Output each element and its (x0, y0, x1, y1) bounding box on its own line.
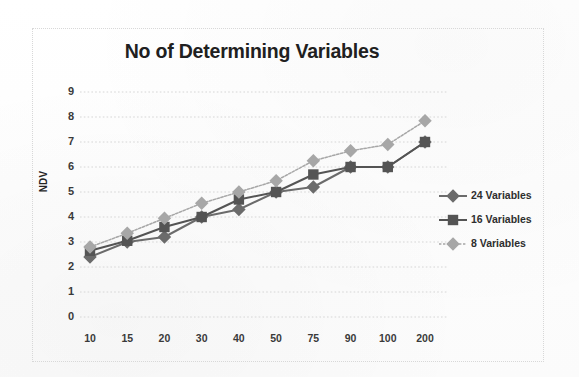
y-axis-tick-label: 8 (52, 110, 74, 122)
x-axis-tick-label: 100 (368, 332, 408, 344)
legend-item-0[interactable]: 24 Variables (438, 183, 548, 207)
legend-label-1: 16 Variables (471, 213, 532, 225)
legend-label-2: 8 Variables (471, 237, 526, 249)
legend-marker-square-icon (438, 213, 468, 225)
x-axis-tick-label: 200 (405, 332, 445, 344)
y-axis-tick-label: 4 (52, 210, 74, 222)
y-axis-tick-label: 3 (52, 235, 74, 247)
series-line-0 (84, 136, 430, 262)
x-axis-tick-label: 75 (293, 332, 333, 344)
series-line-2 (84, 115, 430, 252)
y-axis-tick-label: 2 (52, 260, 74, 272)
y-axis-tick-label: 9 (52, 85, 74, 97)
y-axis-tick-label: 6 (52, 160, 74, 172)
y-axis-tick-label: 5 (52, 185, 74, 197)
x-axis-tick-label: 30 (182, 332, 222, 344)
legend-item-2[interactable]: 8 Variables (438, 231, 548, 255)
x-axis-tick-label: 15 (107, 332, 147, 344)
legend-marker-diamond-light-icon (438, 237, 468, 249)
series-line-1 (86, 138, 430, 256)
legend-marker-diamond-icon (438, 189, 468, 201)
x-axis-tick-label: 50 (256, 332, 296, 344)
x-axis-tick-label: 20 (144, 332, 184, 344)
x-axis-tick-label: 10 (70, 332, 110, 344)
x-axis-tick-label: 40 (219, 332, 259, 344)
y-axis-tick-label: 0 (52, 310, 74, 322)
y-axis-tick-label: 1 (52, 285, 74, 297)
x-axis-tick-label: 90 (331, 332, 371, 344)
legend-label-0: 24 Variables (471, 189, 532, 201)
legend-item-1[interactable]: 16 Variables (438, 207, 548, 231)
chart-legend: 24 Variables 16 Variables 8 Variables (438, 183, 548, 255)
y-axis-tick-label: 7 (52, 135, 74, 147)
